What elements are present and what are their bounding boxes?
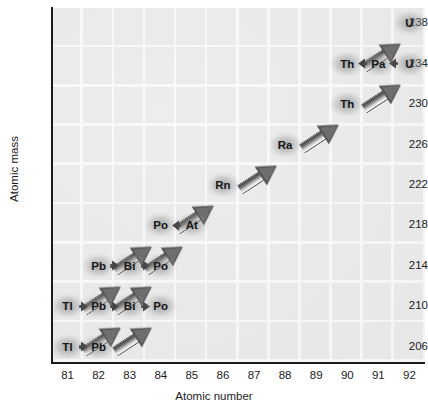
nuclide-label: Th <box>340 98 354 110</box>
x-tick-88: 88 <box>268 370 302 382</box>
x-axis-label: Atomic number <box>0 390 428 402</box>
nuclide-Th-234: Th <box>338 57 356 71</box>
nuclide-label: Rn <box>215 179 231 191</box>
nuclide-label: U <box>405 58 413 70</box>
y-axis-label: Atomic mass <box>8 114 20 224</box>
nuclide-label: Bi <box>124 300 136 312</box>
x-tick-89: 89 <box>299 370 333 382</box>
nuclide-Po-214: Po <box>151 259 170 273</box>
nuclide-Th-230: Th <box>338 97 356 111</box>
nuclide-U-234: U <box>403 57 415 71</box>
nuclide-Tl-206: Tl <box>60 340 74 354</box>
nuclide-label: Pb <box>91 341 106 353</box>
y-tick-218: 218 <box>384 219 428 231</box>
nuclide-label: Bi <box>124 260 136 272</box>
nuclide-label: Pb <box>91 300 106 312</box>
nuclide-Po-218: Po <box>151 218 170 232</box>
nuclide-Bi-210: Bi <box>122 299 138 313</box>
nuclide-Pb-206: Pb <box>89 340 108 354</box>
nuclide-label: Po <box>153 300 168 312</box>
nuclide-At-218: At <box>184 218 200 232</box>
nuclide-label: Po <box>153 219 168 231</box>
nuclide-label: U <box>405 17 413 29</box>
y-tick-222: 222 <box>384 179 428 191</box>
nuclide-label: Tl <box>62 341 72 353</box>
x-tick-83: 83 <box>113 370 147 382</box>
x-tick-92: 92 <box>392 370 426 382</box>
x-tick-81: 81 <box>51 370 85 382</box>
nuclide-label: At <box>186 219 198 231</box>
nuclide-label: Ra <box>278 139 293 151</box>
x-tick-91: 91 <box>361 370 395 382</box>
nuclide-Rn-222: Rn <box>213 178 233 192</box>
y-tick-226: 226 <box>384 139 428 151</box>
nuclide-Ra-226: Ra <box>276 138 295 152</box>
nuclide-label: Pa <box>371 58 385 70</box>
y-tick-206: 206 <box>384 341 428 353</box>
nuclide-Pb-210: Pb <box>89 299 108 313</box>
x-tick-84: 84 <box>144 370 178 382</box>
nuclide-U-238: U <box>403 16 415 30</box>
y-tick-214: 214 <box>384 260 428 272</box>
x-axis-line <box>51 362 425 364</box>
nuclide-Tl-210: Tl <box>60 299 74 313</box>
nuclide-label: Pb <box>91 260 106 272</box>
decay-chain-chart: 206210214218222226230234238 818283848586… <box>0 0 428 411</box>
nuclide-Pa-234: Pa <box>369 57 387 71</box>
nuclide-label: Tl <box>62 300 72 312</box>
x-tick-85: 85 <box>175 370 209 382</box>
nuclide-label: Po <box>153 260 168 272</box>
x-tick-87: 87 <box>237 370 271 382</box>
x-tick-86: 86 <box>206 370 240 382</box>
x-tick-82: 82 <box>82 370 116 382</box>
nuclide-Pb-214: Pb <box>89 259 108 273</box>
nuclide-Po-210: Po <box>151 299 170 313</box>
y-tick-210: 210 <box>384 300 428 312</box>
nuclide-label: Th <box>340 58 354 70</box>
nuclide-Bi-214: Bi <box>122 259 138 273</box>
x-tick-90: 90 <box>330 370 364 382</box>
